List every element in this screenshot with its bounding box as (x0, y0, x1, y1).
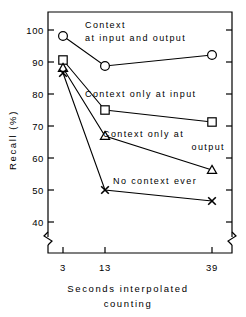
annotation-context-only-at-input: Context only at input (85, 89, 196, 99)
annotation-line: Context only at (103, 129, 184, 139)
annotation-line: at input and output (85, 33, 186, 43)
annotation-no-context-ever: No context ever (113, 176, 197, 186)
data-point-square (101, 106, 109, 114)
y-tick-labels: 100 90 80 70 60 50 40 (26, 25, 44, 228)
figure-container: 100 90 80 70 60 50 40 Recall (%) 3 13 39 (0, 0, 246, 317)
annotation-line: Context (85, 20, 126, 30)
y-axis-title: Recall (%) (7, 110, 18, 170)
x-axis-title-line1: Seconds interpolated (67, 283, 188, 294)
y-tick-label: 60 (32, 153, 44, 164)
data-point-circle (208, 51, 217, 60)
x-tick-label: 3 (60, 262, 66, 273)
annotation-line: Context only at input (85, 89, 196, 99)
y-tick-label: 50 (32, 185, 44, 196)
y-tick-label: 40 (32, 217, 44, 228)
plot-frame (48, 12, 232, 237)
annotation-context-input-and-output: Context at input and output (85, 20, 186, 43)
annotation-context-only-at-output: Context only at output (103, 129, 225, 152)
y-axis-break-marks (44, 232, 236, 245)
y-tick-label: 70 (32, 121, 44, 132)
y-tick-label: 100 (26, 25, 44, 36)
annotation-line: No context ever (113, 176, 197, 186)
annotation-line: output (192, 142, 225, 152)
recall-line-chart: 100 90 80 70 60 50 40 Recall (%) 3 13 39 (0, 0, 246, 317)
x-axis-ticks (63, 247, 212, 253)
x-tick-labels: 3 13 39 (60, 262, 218, 273)
y-tick-label: 80 (32, 89, 44, 100)
x-tick-label: 13 (99, 262, 111, 273)
x-axis-title: Seconds interpolated counting (67, 283, 188, 309)
y-tick-label: 90 (32, 57, 44, 68)
x-axis-title-line2: counting (104, 298, 153, 309)
x-tick-label: 39 (206, 262, 218, 273)
series-context-only-at-output (58, 63, 216, 173)
data-point-square (208, 118, 216, 126)
x-axis-line (48, 245, 232, 253)
data-point-circle (59, 32, 68, 41)
data-point-circle (101, 62, 110, 71)
